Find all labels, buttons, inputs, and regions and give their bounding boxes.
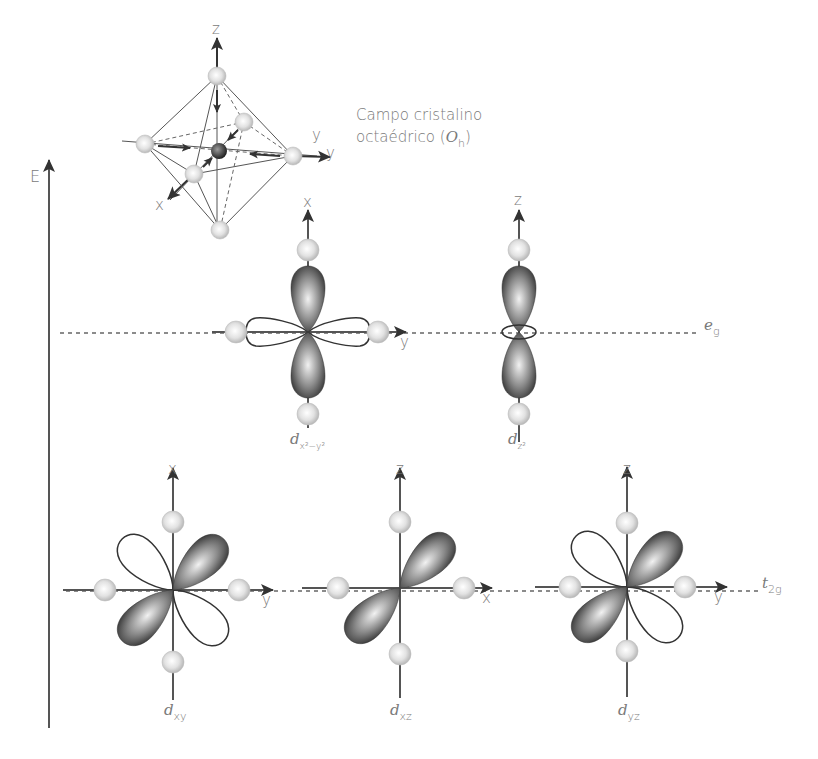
dx2y2-up-axis-label: x [303, 195, 312, 210]
orbital-dyz [535, 467, 727, 697]
orbital-dxz [302, 468, 492, 698]
t2g-label: t2g [762, 576, 782, 591]
title-line-1: Campo cristalino [356, 104, 482, 126]
dz2-label: dz² [508, 432, 526, 447]
octa-x-label: x [155, 198, 164, 213]
dxy-label: dxy [164, 703, 187, 718]
dxz-label: dxz [390, 703, 412, 718]
octa-z-label: z [212, 22, 220, 37]
eg-label: eg [704, 318, 720, 333]
metal-center [211, 143, 227, 159]
crystal-field-title: Campo cristalino octaédrico (Oh) [356, 104, 482, 150]
orbital-dz2 [502, 210, 536, 442]
dz2-up-axis-label: z [514, 193, 522, 208]
dxy-right-axis-label: y [262, 593, 271, 608]
dyz-label: dyz [618, 703, 640, 718]
orbital-dx2-y2 [212, 210, 406, 428]
energy-axis-label: E [30, 169, 40, 185]
dxz-right-axis-label: x [482, 591, 491, 606]
dxz-up-axis-label: z [396, 462, 404, 477]
octahedron-crystal-field [122, 38, 330, 239]
octa-y-inner-label: y [312, 128, 321, 143]
dxy-up-axis-label: x [168, 462, 177, 477]
oh-symbol: O [446, 128, 458, 146]
title-line-2: octaédrico (Oh) [356, 126, 482, 150]
dyz-right-axis-label: y [714, 590, 723, 605]
octa-y-outer-label: y [326, 146, 335, 161]
orbital-dxy [63, 468, 273, 700]
dyz-up-axis-label: z [623, 462, 631, 477]
dx2y2-right-axis-label: y [400, 335, 409, 350]
dx2y2-label: dx²−y² [290, 432, 325, 447]
